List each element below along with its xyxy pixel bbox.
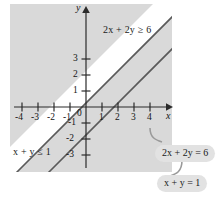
x-tick-label-neg4: -4 xyxy=(15,112,23,122)
y-tick-label-neg3: -3 xyxy=(66,149,74,159)
upper-line-equation-callout: 2x + 2y = 6 xyxy=(155,145,215,162)
y-tick-label-2: 2 xyxy=(73,69,78,79)
x-tick-label-4: 4 xyxy=(147,112,152,122)
lower-inequality-label: x + y ≤ 1 xyxy=(13,146,51,157)
y-tick-label-neg2: -2 xyxy=(66,133,74,143)
x-tick-label-neg3: -3 xyxy=(31,112,39,122)
y-tick-label-1: 1 xyxy=(73,85,78,95)
y-tick-label-3: 3 xyxy=(73,53,78,63)
y-tick-label-neg1: -1 xyxy=(68,117,76,127)
x-tick-label-3: 3 xyxy=(131,112,136,122)
x-tick-label-1: 1 xyxy=(99,112,104,122)
y-axis-label: y xyxy=(76,2,80,13)
lower-line-equation-callout: x + y = 1 xyxy=(157,175,207,192)
inequality-graph-figure: y x 0 -4 -3 -2 -1 1 2 3 4 3 2 1 -1 -2 -3… xyxy=(0,0,224,208)
x-axis-label: x xyxy=(166,110,170,121)
upper-inequality-label: 2x + 2y ≥ 6 xyxy=(103,24,151,35)
x-tick-label-2: 2 xyxy=(115,112,120,122)
origin-label: 0 xyxy=(77,108,82,118)
x-tick-label-neg2: -2 xyxy=(47,112,55,122)
